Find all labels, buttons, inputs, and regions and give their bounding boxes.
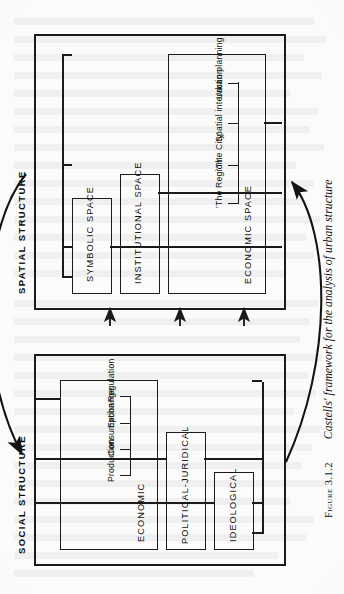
scanned-book-page: SPATIAL STRUCTURE SYMBOLIC SPACE INSTITU… xyxy=(0,0,344,594)
figure-caption-text: Castells' framework for the analysis of … xyxy=(322,179,335,439)
figure-rotated-stage: SPATIAL STRUCTURE SYMBOLIC SPACE INSTITU… xyxy=(0,0,344,594)
arrow-social-to-spatial-group xyxy=(110,308,244,326)
curve-social-to-spatial xyxy=(286,182,321,462)
curve-spatial-to-social xyxy=(0,174,26,454)
connector-overlay xyxy=(0,0,344,594)
castells-framework-diagram: SPATIAL STRUCTURE SYMBOLIC SPACE INSTITU… xyxy=(0,0,344,594)
figure-number: Figure 3.1.2 xyxy=(323,462,334,518)
figure-caption: Figure 3.1.2 Castells' framework for the… xyxy=(318,179,336,518)
